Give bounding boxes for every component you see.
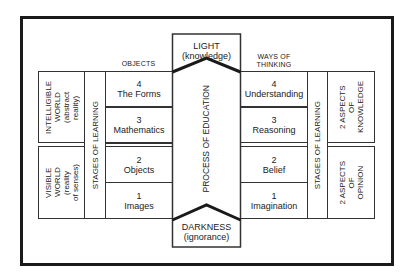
process-of-education-label: PROCESS OF EDUCATION — [202, 85, 211, 193]
light-box: LIGHT (knowledge) — [172, 41, 241, 61]
darkness-box: DARKNESS (ignorance) — [172, 222, 241, 242]
light-subtitle: (knowledge) — [172, 51, 241, 61]
light-title: LIGHT — [172, 41, 241, 51]
process-column: PROCESS OF EDUCATION — [172, 72, 241, 206]
darkness-subtitle: (ignorance) — [172, 232, 241, 242]
darkness-title: DARKNESS — [172, 222, 241, 232]
